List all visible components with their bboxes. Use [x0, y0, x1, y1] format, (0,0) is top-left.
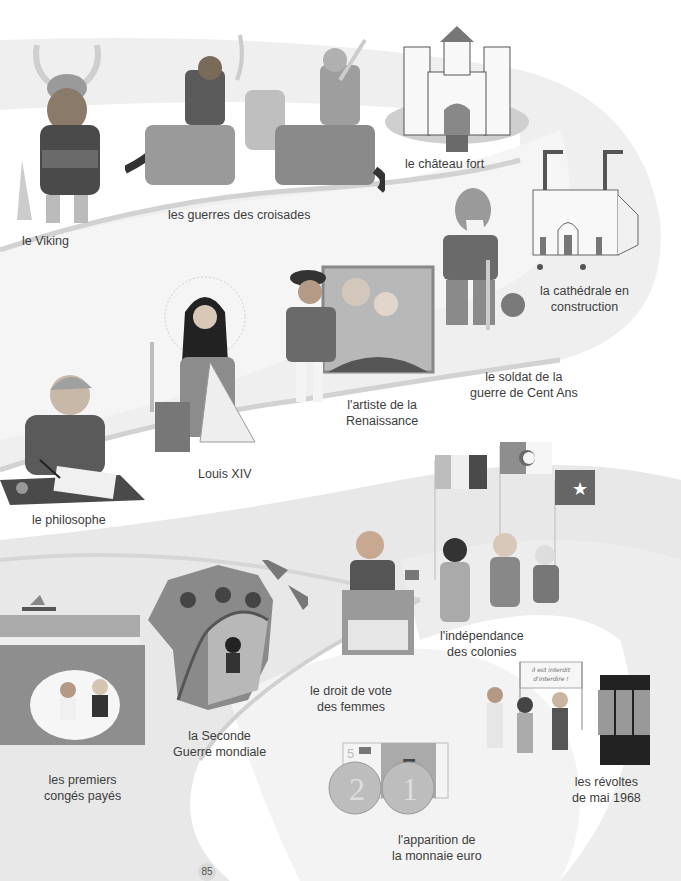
illustrated-timeline-page: le Viking les guerres des croisades: [0, 0, 681, 881]
label-ww2-line2: Guerre mondiale: [173, 744, 266, 760]
svg-text:d'interdire !: d'interdire !: [533, 675, 568, 682]
flags-icon: ★: [415, 440, 595, 640]
protest-icon: il est interdit d'interdire !: [470, 660, 650, 770]
svg-text:★: ★: [572, 478, 588, 499]
label-artist-line2: Renaissance: [346, 413, 418, 429]
cathedral-icon: [528, 145, 643, 275]
castle-icon: [382, 22, 532, 152]
label-soldier: le soldat de la guerre de Cent Ans: [470, 369, 578, 401]
label-ww2-line1: la Seconde: [173, 728, 266, 744]
viking-icon: [12, 30, 122, 230]
label-soldier-line1: le soldat de la: [470, 369, 578, 385]
label-holidays-line1: les premiers: [44, 772, 121, 788]
euro-icon: 5 5 2 1: [325, 738, 450, 823]
label-castle: le château fort: [405, 156, 484, 172]
label-philosopher: le philosophe: [32, 512, 106, 528]
label-may68-line2: de mai 1968: [572, 790, 641, 806]
label-cathedral-line1: la cathédrale en: [540, 283, 629, 299]
label-independence-line1: l'indépendance: [440, 628, 524, 644]
ballot-box-icon: [320, 520, 430, 660]
label-euro: l'apparition de la monnaie euro: [392, 832, 482, 864]
svg-text:1: 1: [402, 771, 418, 807]
label-independence-line2: des colonies: [440, 644, 524, 660]
label-womens-vote: le droit de vote des femmes: [310, 683, 392, 715]
label-may68-line1: les révoltes: [572, 774, 641, 790]
label-cathedral: la cathédrale en construction: [540, 283, 629, 315]
page-number: 85: [198, 863, 216, 881]
france-map-icon: [148, 560, 308, 720]
label-soldier-line2: guerre de Cent Ans: [470, 385, 578, 401]
label-euro-line1: l'apparition de: [392, 832, 482, 848]
svg-text:2: 2: [349, 771, 365, 807]
label-euro-line2: la monnaie euro: [392, 848, 482, 864]
label-cathedral-line2: construction: [540, 299, 629, 315]
philosopher-icon: [0, 360, 148, 510]
label-crusades: les guerres des croisades: [168, 207, 310, 223]
label-may-68: les révoltes de mai 1968: [572, 774, 641, 806]
label-louis-xiv: Louis XIV: [198, 466, 252, 482]
label-artist: l'artiste de la Renaissance: [346, 397, 418, 429]
svg-text:5: 5: [347, 746, 354, 761]
king-icon: [140, 272, 280, 462]
label-viking: le Viking: [22, 233, 69, 249]
beach-icon: [0, 595, 145, 765]
crusaders-icon: [125, 30, 385, 200]
label-artist-line1: l'artiste de la: [346, 397, 418, 413]
label-vote-line2: des femmes: [310, 699, 392, 715]
label-holidays-line2: congés payés: [44, 788, 121, 804]
label-independence: l'indépendance des colonies: [440, 628, 524, 660]
label-vote-line1: le droit de vote: [310, 683, 392, 699]
label-paid-holidays: les premiers congés payés: [44, 772, 121, 804]
svg-text:il est interdit: il est interdit: [532, 666, 571, 673]
soldier-icon: [428, 180, 528, 340]
label-ww2: la Seconde Guerre mondiale: [173, 728, 266, 760]
